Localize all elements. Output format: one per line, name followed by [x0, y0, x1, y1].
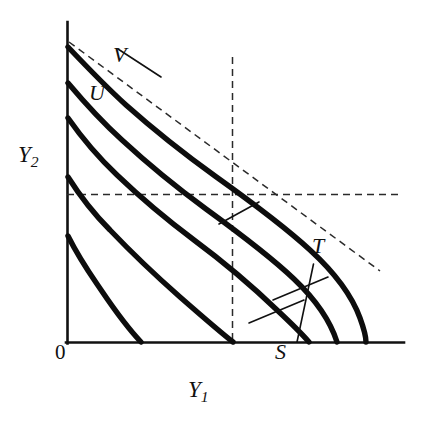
point-label-v: V: [113, 44, 126, 66]
x-axis-label: Y1: [188, 378, 209, 405]
tangent-segment-lower: [249, 300, 304, 323]
y-axis-label-subscript: 2: [31, 153, 39, 170]
tangent-segment-upper: [273, 277, 328, 300]
origin-label: 0: [55, 342, 66, 363]
tangent-segment-midcurve: [219, 202, 259, 224]
transformation-curve-3: [68, 118, 309, 342]
figure-container: V U T S 0 Y2 Y1: [0, 0, 425, 428]
point-label-t: T: [312, 235, 324, 257]
tangent-line-S-to-T: [297, 264, 314, 342]
y-axis-label-base: Y: [18, 142, 31, 167]
point-label-u: U: [89, 82, 105, 104]
y-axis-label: Y2: [18, 143, 39, 170]
tangent-lines-group: [118, 49, 328, 342]
x-axis-label-base: Y: [188, 377, 201, 402]
axes-group: [66, 22, 404, 344]
point-label-s: S: [275, 341, 286, 363]
x-axis-label-subscript: 1: [201, 388, 209, 405]
